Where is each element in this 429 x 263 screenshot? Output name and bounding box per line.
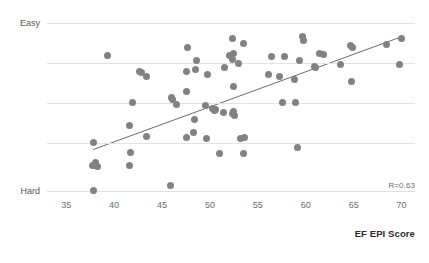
chart-page: EasyHard 3540455055606570 R=0.63 EF EPI … xyxy=(0,0,429,263)
x-axis-tick: 45 xyxy=(157,200,167,210)
scatter-point xyxy=(235,60,242,67)
scatter-point xyxy=(216,150,223,157)
x-axis-tick: 35 xyxy=(61,200,71,210)
scatter-point xyxy=(90,187,97,194)
scatter-point xyxy=(268,53,275,60)
plot-area: EasyHard xyxy=(47,14,415,196)
scatter-point xyxy=(337,61,344,68)
x-axis-ticks: 3540455055606570 xyxy=(47,200,415,216)
x-axis-title: EF EPI Score xyxy=(355,228,415,239)
y-axis-label-hard: Hard xyxy=(20,186,40,196)
gridline xyxy=(47,143,415,144)
x-axis-tick: 60 xyxy=(301,200,311,210)
scatter-point xyxy=(221,64,228,71)
scatter-point xyxy=(279,99,286,106)
scatter-point xyxy=(296,57,303,64)
y-axis-label-easy: Easy xyxy=(20,18,40,28)
x-axis-tick: 65 xyxy=(349,200,359,210)
scatter-point xyxy=(292,99,299,106)
scatter-point xyxy=(240,150,247,157)
scatter-point xyxy=(294,144,301,151)
gridline xyxy=(47,23,415,24)
scatter-point xyxy=(240,40,247,47)
scatter-point xyxy=(320,51,327,58)
scatter-point xyxy=(202,102,209,109)
gridline xyxy=(47,103,415,104)
x-axis-tick: 55 xyxy=(253,200,263,210)
x-axis-tick: 50 xyxy=(205,200,215,210)
scatter-point xyxy=(312,64,319,71)
gridline xyxy=(47,63,415,64)
scatter-point xyxy=(129,99,136,106)
gridline xyxy=(47,191,415,192)
scatter-point xyxy=(193,57,200,64)
scatter-point xyxy=(190,129,197,136)
scatter-point xyxy=(127,149,134,156)
scatter-point xyxy=(203,135,210,142)
scatter-point xyxy=(173,101,180,108)
scatter-point xyxy=(396,61,403,68)
scatter-point xyxy=(230,50,237,57)
scatter-point xyxy=(192,66,199,73)
scatter-point xyxy=(291,76,298,83)
correlation-annotation: R=0.63 xyxy=(388,181,415,190)
x-axis-tick: 40 xyxy=(109,200,119,210)
scatter-point xyxy=(220,109,227,116)
x-axis-tick: 70 xyxy=(397,200,407,210)
